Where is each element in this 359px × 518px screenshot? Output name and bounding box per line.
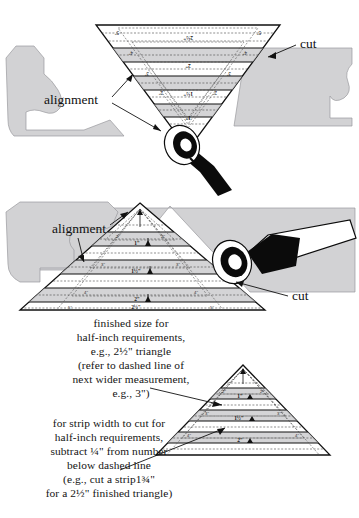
edge-label-bot-left-2: 3" (205, 411, 209, 416)
finished-size-line-4: (refer to dashed line of (22, 359, 240, 373)
strip-width-line-4: below dashed line (4, 459, 214, 473)
strip-width-line-3: subtract ¼" from number (4, 445, 214, 459)
finished-size-caption: finished size for half-inch requirements… (22, 317, 240, 400)
finished-size-line-1: finished size for (22, 317, 240, 331)
finished-size-line-3: e.g., 2½" triangle (22, 345, 240, 359)
strip-width-line-2: half-inch requirements, (4, 431, 214, 445)
finished-size-line-6: e.g., 3") (22, 387, 240, 401)
row-label-text: 1½" (234, 415, 244, 421)
edge-label-bot-right-2: 3" (277, 411, 281, 416)
finished-size-line-5: next wider measurement, (22, 373, 240, 387)
edge-label-bot-right-3: 4" (295, 433, 299, 438)
strip-width-line-1: for strip width to cut for (4, 417, 214, 431)
strip-width-caption: for strip width to cut for half-inch req… (4, 417, 214, 500)
strip-width-line-5: (e.g., cut a strip1¾" (4, 473, 214, 487)
row-label-text: 2" (237, 437, 243, 443)
strip-width-line-6: for a 2½" finished triangle) (4, 487, 214, 501)
page-root: 2½" 2" 1½" 1" 5" 5" 4" 4" 3" 3" 2" 2" (0, 0, 359, 518)
finished-size-line-2: half-inch requirements, (22, 331, 240, 345)
edge-label-bot-right-1: 2" (260, 389, 264, 394)
